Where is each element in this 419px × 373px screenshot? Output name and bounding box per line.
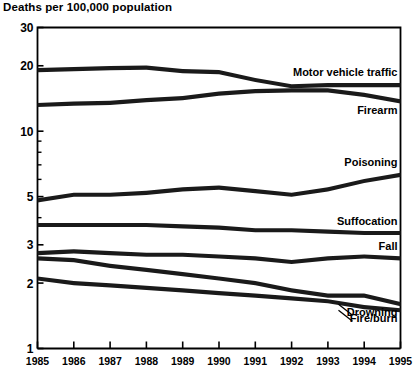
x-tick-label: 1989 bbox=[171, 355, 195, 367]
chart-plot-area: 3020105321 19851986198719881989199019911… bbox=[0, 0, 419, 373]
y-tick-label: 3 bbox=[27, 238, 34, 252]
series-line-drowning bbox=[38, 256, 401, 306]
series-label-fire-burn: Fire/burn bbox=[350, 312, 398, 324]
x-tick-label: 1992 bbox=[280, 355, 304, 367]
y-tick-label: 30 bbox=[20, 21, 34, 35]
x-tick-label: 1985 bbox=[26, 355, 50, 367]
chart-container: Deaths per 100,000 population 3020105321… bbox=[0, 0, 419, 373]
x-tick-label: 1990 bbox=[207, 355, 231, 367]
series-label-suffocation: Suffocation bbox=[337, 215, 398, 227]
x-tick-label: 1991 bbox=[244, 355, 268, 367]
series-group bbox=[38, 66, 401, 313]
series-line-firearm bbox=[38, 88, 401, 107]
x-axis-ticks: 1985198619871988198919901991199219931994… bbox=[26, 342, 413, 367]
y-tick-label: 2 bbox=[27, 277, 34, 291]
series-annotations: Motor vehicle trafficFirearmPoisoningSuf… bbox=[293, 66, 398, 324]
series-label-motor-vehicle-traffic: Motor vehicle traffic bbox=[293, 66, 398, 78]
x-tick-label: 1995 bbox=[389, 355, 413, 367]
x-tick-label: 1988 bbox=[135, 355, 159, 367]
x-tick-label: 1986 bbox=[62, 355, 86, 367]
series-label-poisoning: Poisoning bbox=[344, 156, 397, 168]
x-tick-label: 1987 bbox=[98, 355, 122, 367]
y-tick-label: 5 bbox=[27, 190, 34, 204]
series-label-fall: Fall bbox=[379, 240, 398, 252]
series-line-poisoning bbox=[38, 173, 401, 203]
series-label-firearm: Firearm bbox=[357, 104, 398, 116]
x-tick-label: 1994 bbox=[353, 355, 377, 367]
y-tick-label: 10 bbox=[20, 125, 34, 139]
y-tick-label: 20 bbox=[20, 59, 34, 73]
x-tick-label: 1993 bbox=[316, 355, 340, 367]
